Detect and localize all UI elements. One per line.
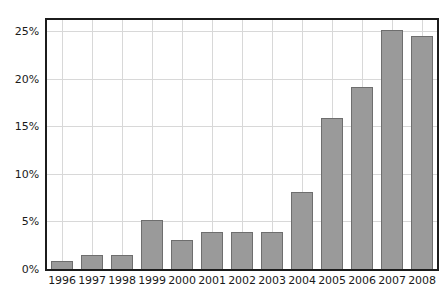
bar xyxy=(321,118,343,269)
bar xyxy=(111,255,133,269)
bar xyxy=(51,261,73,269)
x-tick-label: 2004 xyxy=(288,275,316,286)
bar xyxy=(411,36,433,269)
bar xyxy=(261,232,283,269)
x-tick-label: 1999 xyxy=(138,275,166,286)
x-tick-label: 2001 xyxy=(198,275,226,286)
x-tick-label: 2006 xyxy=(348,275,376,286)
bars-layer xyxy=(47,20,437,269)
bar-chart: 0%5%10%15%20%25% 19961997199819992000200… xyxy=(0,0,448,305)
bar xyxy=(201,232,223,269)
y-tick-label: 0% xyxy=(22,264,39,275)
y-tick-label: 20% xyxy=(15,73,39,84)
x-tick-label: 1996 xyxy=(48,275,76,286)
x-tick-label: 2000 xyxy=(168,275,196,286)
bar xyxy=(381,30,403,269)
y-axis: 0%5%10%15%20%25% xyxy=(0,0,44,305)
x-tick-label: 2003 xyxy=(258,275,286,286)
x-tick-label: 2002 xyxy=(228,275,256,286)
x-tick-label: 1998 xyxy=(108,275,136,286)
x-tick-label: 2005 xyxy=(318,275,346,286)
y-tick-label: 25% xyxy=(15,26,39,37)
x-axis: 1996199719981999200020012002200320042005… xyxy=(45,275,439,299)
x-tick-label: 1997 xyxy=(78,275,106,286)
x-tick-label: 2007 xyxy=(378,275,406,286)
bar xyxy=(231,232,253,269)
bar xyxy=(291,192,313,269)
bar xyxy=(141,220,163,269)
y-tick-label: 15% xyxy=(15,121,39,132)
x-tick-label: 2008 xyxy=(408,275,436,286)
bar xyxy=(171,240,193,269)
y-tick-label: 10% xyxy=(15,168,39,179)
plot-area xyxy=(45,18,439,271)
y-tick-label: 5% xyxy=(22,216,39,227)
bar xyxy=(81,255,103,269)
bar xyxy=(351,87,373,269)
